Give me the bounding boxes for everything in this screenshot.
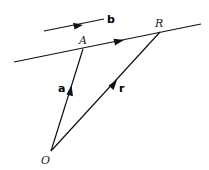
vector-diagram: b a r O A R — [0, 0, 209, 170]
vector-a: a — [51, 49, 83, 151]
point-R-label: R — [154, 17, 163, 30]
vector-b: b — [44, 13, 115, 31]
vector-r: r — [51, 32, 160, 151]
vector-a-label: a — [58, 82, 65, 95]
vector-r-label: r — [119, 82, 125, 95]
arrowhead-icon — [67, 85, 74, 96]
line-AR — [14, 24, 201, 62]
point-O-label: O — [41, 154, 50, 167]
vector-b-label: b — [107, 13, 115, 26]
point-A-label: A — [78, 34, 87, 47]
arrowhead-icon — [109, 80, 118, 90]
